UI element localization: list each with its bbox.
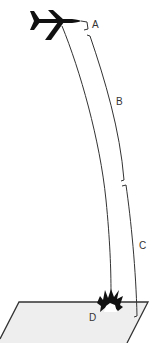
descent-diagram: A B C D <box>0 0 153 343</box>
bracket-c <box>122 185 137 317</box>
label-a: A <box>92 19 99 30</box>
bracket-a <box>81 21 88 30</box>
label-d: D <box>89 312 96 323</box>
descent-trajectory <box>62 26 111 292</box>
label-c: C <box>139 240 146 251</box>
bracket-b <box>87 35 124 181</box>
airplane-icon <box>30 10 81 40</box>
label-b: B <box>116 96 123 107</box>
ground-plane <box>0 302 148 343</box>
explosion-icon <box>97 289 123 312</box>
